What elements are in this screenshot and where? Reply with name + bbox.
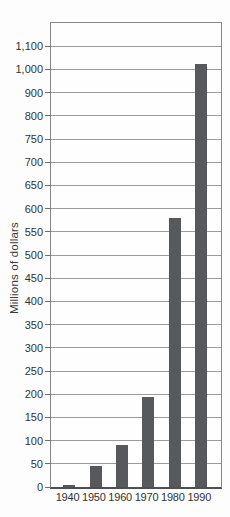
y-axis-tick-label: 600 <box>25 203 43 215</box>
x-axis-tick-label: 1960 <box>108 491 132 503</box>
x-axis-tick-label: 1980 <box>161 491 185 503</box>
y-axis-tick-label: 400 <box>25 295 43 307</box>
y-axis-tick <box>45 301 51 302</box>
bar-1970 <box>142 397 154 487</box>
y-axis-tick <box>45 371 51 372</box>
y-axis-tick <box>45 162 51 163</box>
y-axis-title: Millions of dollars <box>8 222 20 314</box>
bar-1940 <box>63 485 75 487</box>
y-axis-tick <box>45 69 51 70</box>
bar-1950 <box>90 466 102 487</box>
y-axis-tick <box>45 92 51 93</box>
y-axis-tick <box>45 185 51 186</box>
y-axis-tick-label: 150 <box>25 411 43 423</box>
y-axis-tick <box>45 139 51 140</box>
y-axis-tick-label: 300 <box>25 342 43 354</box>
x-axis-tick-label: 1970 <box>135 491 159 503</box>
y-axis-tick-label: 700 <box>25 156 43 168</box>
y-axis-tick <box>45 417 51 418</box>
y-axis-tick <box>45 115 51 116</box>
bar-chart-figure: Millions of dollars 1,1001,0009008007507… <box>0 0 230 517</box>
bar-1960 <box>116 445 128 487</box>
y-axis-tick <box>45 440 51 441</box>
y-axis-tick <box>45 394 51 395</box>
y-axis-tick <box>45 255 51 256</box>
y-axis-tick <box>45 487 51 488</box>
bar-1980 <box>169 218 181 487</box>
y-axis-tick-label: 800 <box>25 110 43 122</box>
y-axis-tick-label: 750 <box>25 133 43 145</box>
y-axis-tick <box>45 347 51 348</box>
y-axis-tick-label: 100 <box>25 435 43 447</box>
y-axis-tick <box>45 208 51 209</box>
y-axis-tick-label: 550 <box>25 226 43 238</box>
y-axis-tick <box>45 46 51 47</box>
y-axis-tick-label: 0 <box>37 481 43 493</box>
y-axis-tick-label: 900 <box>25 87 43 99</box>
y-axis-tick <box>45 324 51 325</box>
y-axis-tick-label: 450 <box>25 272 43 284</box>
y-axis-tick <box>45 278 51 279</box>
y-axis-tick-label: 250 <box>25 365 43 377</box>
y-axis-tick-label: 500 <box>25 249 43 261</box>
y-axis-tick <box>45 231 51 232</box>
y-axis-tick-label: 1,000 <box>15 63 43 75</box>
gridline <box>51 46 221 47</box>
x-axis-tick-label: 1990 <box>187 491 211 503</box>
y-axis-tick-label: 650 <box>25 179 43 191</box>
y-axis-tick-label: 200 <box>25 388 43 400</box>
x-axis-tick-label: 1940 <box>56 491 80 503</box>
plot-area: 1,1001,000900800750700650600550500450400… <box>50 22 222 489</box>
bar-1990 <box>195 64 207 487</box>
y-axis-tick <box>45 463 51 464</box>
y-axis-tick-label: 1,100 <box>15 40 43 52</box>
y-axis-tick-label: 350 <box>25 319 43 331</box>
x-axis-tick-label: 1950 <box>82 491 106 503</box>
y-axis-tick-label: 50 <box>31 458 43 470</box>
